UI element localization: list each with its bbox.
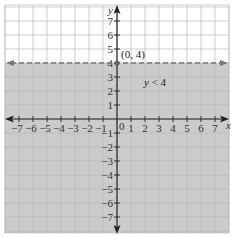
inequality-graph: −7−6−5−4−3−2−11234567−7−6−5−4−3−2−112345… (0, 0, 232, 236)
x-tick-label: −5 (39, 122, 51, 134)
y-tick-label: −1 (101, 127, 113, 139)
x-tick-label: 5 (184, 122, 190, 134)
point-label: (0, 4) (121, 48, 145, 61)
x-tick-label: 6 (198, 122, 204, 134)
x-tick-label: 3 (156, 122, 162, 134)
x-tick-label: −2 (81, 122, 93, 134)
y-tick-label: −2 (101, 141, 113, 153)
y-tick-label: −4 (101, 169, 113, 181)
x-tick-label: −7 (11, 122, 23, 134)
x-tick-label: 2 (142, 122, 148, 134)
x-tick-label: −4 (53, 122, 65, 134)
y-tick-label: −3 (101, 155, 113, 167)
x-tick-label: −6 (25, 122, 37, 134)
x-tick-label: 1 (128, 122, 134, 134)
y-tick-label: 2 (108, 85, 114, 97)
y-tick-label: 6 (108, 29, 114, 41)
origin-label: 0 (119, 120, 125, 132)
y-axis-label: y (107, 4, 113, 16)
x-tick-label: 7 (212, 122, 218, 134)
x-tick-label: −3 (67, 122, 79, 134)
x-axis-label: x (225, 119, 231, 131)
y-tick-label: 1 (108, 99, 114, 111)
y-tick-label: −7 (101, 211, 113, 223)
y-tick-label: 5 (108, 43, 114, 55)
point-marker (114, 60, 119, 65)
y-tick-label: 7 (108, 15, 114, 27)
y-tick-label: −6 (101, 197, 113, 209)
y-tick-label: 3 (108, 71, 114, 83)
x-tick-label: 4 (170, 122, 176, 134)
y-tick-label: −5 (101, 183, 113, 195)
inequality-label: y < 4 (143, 76, 167, 88)
